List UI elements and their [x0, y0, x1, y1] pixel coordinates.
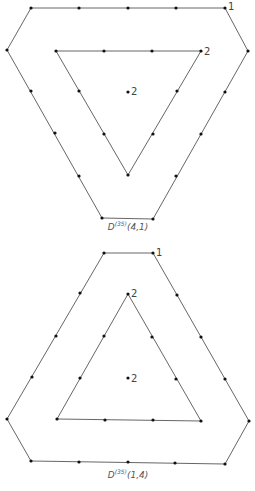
lattice-point — [150, 335, 153, 338]
lattice-point — [151, 251, 154, 254]
lattice-point — [151, 418, 154, 421]
lattice-point — [173, 461, 176, 464]
lattice-point — [103, 418, 106, 421]
lattice-point — [150, 49, 153, 52]
lattice-point — [223, 6, 226, 9]
point-label: 1 — [156, 247, 162, 258]
lattice-point — [174, 174, 177, 177]
lattice-point — [151, 132, 154, 135]
outer-polygon — [7, 8, 248, 219]
lattice-point — [5, 48, 8, 51]
figure-top: 122D(35)(4,1) — [5, 1, 249, 232]
point-label: 2 — [131, 373, 137, 384]
lattice-point — [54, 334, 57, 337]
figure-caption: D(35)(4,1) — [108, 220, 149, 232]
lattice-point — [199, 419, 202, 422]
lattice-point — [5, 417, 8, 420]
lattice-point — [247, 419, 250, 422]
lattice-point — [175, 293, 178, 296]
inner-triangle — [56, 51, 201, 175]
lattice-point — [175, 89, 178, 92]
lattice-point — [30, 375, 33, 378]
lattice-point — [77, 6, 80, 9]
lattice-point — [29, 459, 32, 462]
point-label: 1 — [228, 1, 234, 12]
lattice-point — [126, 6, 129, 9]
outer-polygon — [7, 253, 249, 464]
lattice-point — [223, 462, 226, 465]
lattice-point — [126, 376, 129, 379]
lattice-point — [102, 251, 105, 254]
lattice-point — [54, 49, 57, 52]
lattice-point — [126, 90, 129, 93]
lattice-point — [77, 89, 80, 92]
lattice-point — [29, 89, 32, 92]
lattice-point — [223, 377, 226, 380]
diagram-canvas: 122D(35)(4,1)122D(35)(1,4) — [0, 0, 255, 491]
lattice-point — [78, 291, 81, 294]
lattice-point — [53, 131, 56, 134]
figure-caption: D(35)(1,4) — [108, 468, 149, 480]
lattice-point — [100, 216, 103, 219]
lattice-point — [102, 334, 105, 337]
lattice-point — [126, 460, 129, 463]
lattice-point — [77, 174, 80, 177]
lattice-point — [126, 173, 129, 176]
lattice-point — [78, 376, 81, 379]
lattice-point — [151, 217, 154, 220]
lattice-point — [102, 132, 105, 135]
point-label: 2 — [204, 46, 210, 57]
lattice-point — [199, 132, 202, 135]
lattice-point — [102, 49, 105, 52]
figure-bottom: 122D(35)(1,4) — [5, 247, 250, 480]
lattice-point — [126, 292, 129, 295]
inner-triangle — [57, 294, 201, 421]
point-label: 2 — [131, 86, 137, 97]
lattice-point — [223, 90, 226, 93]
lattice-point — [246, 49, 249, 52]
lattice-point — [174, 377, 177, 380]
lattice-point — [199, 49, 202, 52]
lattice-point — [174, 6, 177, 9]
lattice-point — [55, 417, 58, 420]
lattice-point — [77, 460, 80, 463]
lattice-point — [199, 335, 202, 338]
point-label: 2 — [131, 288, 137, 299]
lattice-point — [29, 6, 32, 9]
